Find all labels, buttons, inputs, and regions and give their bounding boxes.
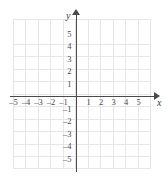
grid-right-edge bbox=[150, 19, 151, 169]
y-tick-label: –5 bbox=[63, 154, 72, 163]
y-tick-label: 3 bbox=[67, 54, 71, 63]
x-tick-label: 5 bbox=[136, 98, 140, 107]
coordinate-plane: x y –5–4–3–2–112345 54321–1–2–3–4–5 bbox=[0, 0, 168, 196]
x-tick-label: –5 bbox=[9, 98, 18, 107]
y-tick-label: –1 bbox=[63, 104, 72, 113]
y-tick-label: 4 bbox=[67, 42, 71, 51]
y-tick-label: –3 bbox=[63, 129, 72, 138]
x-tick-label: 1 bbox=[86, 98, 90, 107]
y-tick-label: 5 bbox=[67, 29, 71, 38]
x-tick-label: –4 bbox=[22, 98, 31, 107]
grid-bottom-edge bbox=[13, 168, 151, 169]
y-tick-label: 1 bbox=[67, 79, 71, 88]
grid-lines bbox=[13, 19, 151, 169]
y-axis-label: y bbox=[66, 11, 70, 21]
x-tick-label: –2 bbox=[47, 98, 56, 107]
y-tick-label: –4 bbox=[63, 142, 72, 151]
y-axis-line bbox=[76, 12, 77, 172]
y-tick-label: 2 bbox=[67, 67, 71, 76]
x-axis-label: x bbox=[157, 98, 161, 108]
x-tick-label: –3 bbox=[34, 98, 43, 107]
y-tick-label: –2 bbox=[63, 117, 72, 126]
x-tick-label: 3 bbox=[111, 98, 115, 107]
x-tick-label: 2 bbox=[99, 98, 103, 107]
x-tick-label: 4 bbox=[124, 98, 128, 107]
y-axis-arrow-icon bbox=[72, 9, 80, 15]
